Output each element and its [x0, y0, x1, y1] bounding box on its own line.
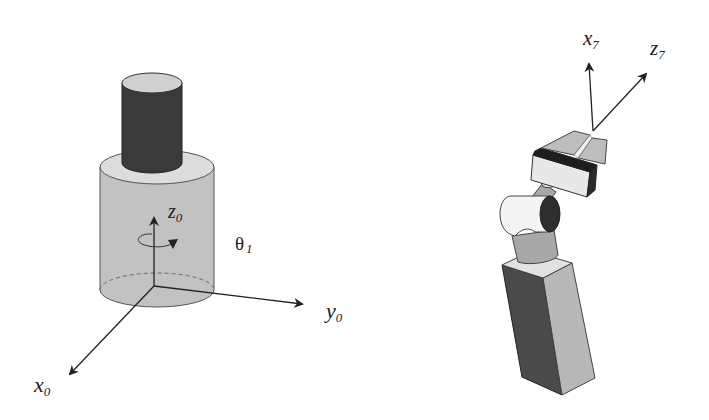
x0-label: x0: [33, 372, 51, 399]
end-effector-frame-labels: x7 z7: [582, 26, 665, 62]
post-side: [122, 83, 182, 173]
x7-axis: [589, 64, 593, 131]
theta1-label: θ1: [235, 233, 253, 256]
elbow-joint-face: [540, 196, 560, 232]
link-neck: [512, 230, 558, 264]
robot-arm-end: [500, 131, 607, 395]
z7-label: z7: [649, 36, 665, 62]
robot-base: [100, 73, 214, 307]
y0-label: y0: [324, 298, 343, 325]
x7-label: x7: [582, 26, 599, 52]
post-top: [122, 73, 182, 93]
robot-frames-diagram: z0 y0 x0 θ1: [0, 0, 709, 420]
z7-axis: [593, 74, 646, 131]
end-effector-frame-axes: [589, 64, 646, 131]
